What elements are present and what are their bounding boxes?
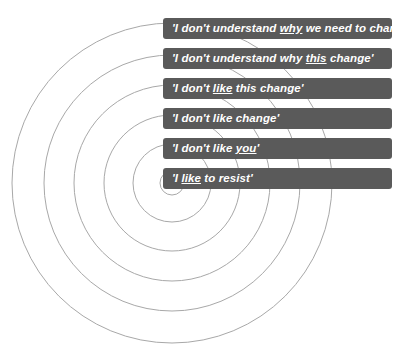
label-like-to-resist: 'I like to resist' [163, 168, 392, 189]
emphasised-word: this [306, 52, 327, 64]
label-bar-text: 'I don't understand why this change' [172, 53, 374, 65]
emphasised-word: like [213, 82, 233, 94]
label-bar-text: 'I don't like you' [172, 143, 259, 155]
label-bar-text: 'I like to resist' [172, 173, 253, 185]
label-bar-text: 'I don't like change' [172, 113, 279, 125]
emphasised-word: why [280, 22, 303, 34]
resistance-rings-diagram: 'I don't understand why we need to chang… [0, 0, 402, 358]
label-dont-understand-why-this-change: 'I don't understand why this change' [163, 48, 392, 69]
label-dont-like-you: 'I don't like you' [163, 138, 392, 159]
label-bars-group: 'I don't understand why we need to chang… [0, 0, 402, 358]
emphasised-word: like [181, 172, 201, 184]
label-bar-text: 'I don't like this change' [172, 83, 304, 95]
label-dont-understand-why-need-to-change: 'I don't understand why we need to chang… [163, 18, 392, 39]
label-bar-text: 'I don't understand why we need to chang… [172, 23, 402, 35]
label-dont-like-this-change: 'I don't like this change' [163, 78, 392, 99]
emphasised-word: you [236, 142, 257, 154]
label-dont-like-change: 'I don't like change' [163, 108, 392, 129]
